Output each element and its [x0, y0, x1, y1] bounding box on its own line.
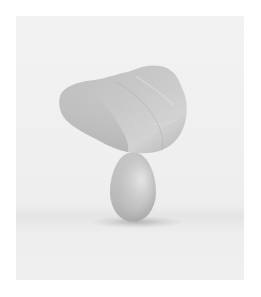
egg: [110, 152, 156, 222]
photo: [16, 16, 244, 280]
rock: [56, 62, 190, 162]
